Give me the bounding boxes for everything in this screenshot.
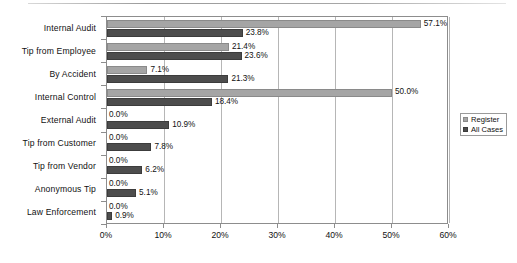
bar[interactable]	[107, 20, 421, 28]
value-axis-tick-label: 60%	[439, 230, 456, 240]
bar[interactable]	[107, 189, 136, 197]
bar-value-label: 18.4%	[215, 98, 238, 106]
bar-group: 0.0%5.1%	[107, 177, 447, 200]
bar-row: 7.1%	[107, 66, 447, 74]
value-axis-tick	[106, 224, 107, 228]
bar-value-label: 0.0%	[109, 134, 128, 142]
bar[interactable]	[107, 143, 151, 151]
bar-row: 5.1%	[107, 189, 447, 197]
category-label: Internal Audit	[0, 16, 100, 39]
bar-group: 0.0%0.9%	[107, 200, 447, 223]
bar-row: 23.8%	[107, 29, 447, 37]
bar[interactable]	[107, 66, 147, 74]
category-label: Anonymous Tip	[0, 178, 100, 201]
legend-swatch-icon	[463, 127, 468, 132]
chart-legend: Register All Cases	[460, 113, 507, 136]
bar-value-label: 23.6%	[245, 52, 268, 60]
bar-group: 0.0%6.2%	[107, 154, 447, 177]
bar-value-label: 5.1%	[139, 189, 158, 197]
bar[interactable]	[107, 212, 112, 220]
bar-value-label: 0.0%	[109, 180, 128, 188]
bar-value-label: 7.8%	[154, 143, 173, 151]
bar-row: 0.0%	[107, 180, 447, 188]
bar[interactable]	[107, 121, 169, 129]
category-label: External Audit	[0, 108, 100, 131]
bar-group: 0.0%7.8%	[107, 131, 447, 154]
value-axis-tick-label: 30%	[268, 230, 285, 240]
bar-row: 7.8%	[107, 143, 447, 151]
value-axis-tick	[220, 224, 221, 228]
legend-item-register[interactable]: Register	[463, 116, 503, 124]
category-label: Tip from Vendor	[0, 155, 100, 178]
bar-group: 0.0%10.9%	[107, 109, 447, 132]
value-axis-tick-label: 0%	[100, 230, 112, 240]
bar-row: 50.0%	[107, 89, 447, 97]
value-axis-tick	[163, 224, 164, 228]
value-axis-tick-label: 50%	[382, 230, 399, 240]
bar[interactable]	[107, 52, 242, 60]
chart-container: Internal Audit Tip from Employee By Acci…	[0, 0, 517, 263]
bar-value-label: 7.1%	[150, 66, 169, 74]
legend-label: Register	[471, 116, 499, 124]
value-axis: 0%10%20%30%40%50%60%	[106, 224, 448, 250]
page-top-rule	[28, 3, 506, 4]
value-axis-tick	[391, 224, 392, 228]
bar-row: 0.0%	[107, 157, 447, 165]
gridline	[449, 17, 450, 223]
bar-group: 21.4%23.6%	[107, 40, 447, 63]
bar-value-label: 0.9%	[115, 212, 134, 220]
bar-value-label: 0.0%	[109, 111, 128, 119]
category-label: Tip from Customer	[0, 132, 100, 155]
bar-rows: 57.1%23.8%21.4%23.6%7.1%21.3%50.0%18.4%0…	[107, 17, 447, 223]
bar-group: 57.1%23.8%	[107, 17, 447, 40]
legend-item-all-cases[interactable]: All Cases	[463, 126, 503, 134]
bar-group: 7.1%21.3%	[107, 63, 447, 86]
category-label: By Accident	[0, 62, 100, 85]
bar-row: 21.3%	[107, 75, 447, 83]
bar-value-label: 0.0%	[109, 203, 128, 211]
bar-row: 0.9%	[107, 212, 447, 220]
bar-row: 10.9%	[107, 121, 447, 129]
bar-value-label: 57.1%	[424, 20, 447, 28]
bar-value-label: 21.3%	[231, 75, 254, 83]
bar-value-label: 6.2%	[145, 166, 164, 174]
bar-row: 6.2%	[107, 166, 447, 174]
bar[interactable]	[107, 166, 142, 174]
bar-row: 18.4%	[107, 98, 447, 106]
value-axis-tick-label: 10%	[154, 230, 171, 240]
category-label: Law Enforcement	[0, 201, 100, 224]
value-axis-tick	[277, 224, 278, 228]
bar-value-label: 0.0%	[109, 157, 128, 165]
value-axis-tick	[448, 224, 449, 228]
bar-value-label: 10.9%	[172, 121, 195, 129]
value-axis-tick-label: 40%	[325, 230, 342, 240]
bar-group: 50.0%18.4%	[107, 86, 447, 109]
bar[interactable]	[107, 75, 228, 83]
legend-label: All Cases	[471, 126, 503, 134]
bar-row: 0.0%	[107, 134, 447, 142]
bar-row: 21.4%	[107, 43, 447, 51]
bar-value-label: 50.0%	[395, 88, 418, 96]
value-axis-tick	[334, 224, 335, 228]
bar[interactable]	[107, 98, 212, 106]
value-axis-tick-label: 20%	[211, 230, 228, 240]
bar-value-label: 23.8%	[246, 29, 269, 37]
bar-value-label: 21.4%	[232, 43, 255, 51]
bar[interactable]	[107, 89, 392, 97]
legend-swatch-icon	[463, 117, 468, 122]
category-label: Internal Control	[0, 85, 100, 108]
bar-row: 0.0%	[107, 111, 447, 119]
plot-area: 57.1%23.8%21.4%23.6%7.1%21.3%50.0%18.4%0…	[106, 16, 448, 224]
bar-row: 23.6%	[107, 52, 447, 60]
category-axis: Internal Audit Tip from Employee By Acci…	[0, 16, 100, 224]
category-label: Tip from Employee	[0, 39, 100, 62]
bar-row: 0.0%	[107, 203, 447, 211]
bar[interactable]	[107, 43, 229, 51]
bar[interactable]	[107, 29, 243, 37]
bar-row: 57.1%	[107, 20, 447, 28]
